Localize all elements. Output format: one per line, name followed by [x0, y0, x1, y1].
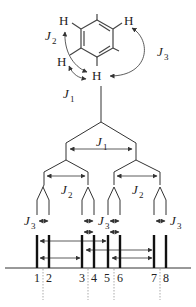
- svg-text:3: 3: [177, 221, 182, 231]
- tree-j3-label: J 3: [98, 213, 110, 231]
- j1-coupling-arrow: [69, 66, 86, 79]
- peak-label: 5: [104, 271, 110, 285]
- peak-label: 4: [91, 271, 97, 285]
- tree-j3-label: J 3: [24, 213, 36, 231]
- j1-label: J 1: [63, 86, 75, 104]
- svg-text:1: 1: [103, 142, 108, 152]
- svg-text:J: J: [63, 86, 70, 101]
- peak-label: 2: [46, 271, 52, 285]
- svg-text:J: J: [96, 134, 103, 149]
- peak-label: 6: [117, 271, 123, 285]
- peak-label: 8: [163, 271, 169, 285]
- svg-text:3: 3: [164, 52, 169, 62]
- peak-label: 3: [79, 271, 85, 285]
- hydrogen-label: H: [59, 13, 68, 28]
- j3-coupling-arrow: [110, 28, 144, 76]
- splitting-tree: [37, 86, 166, 221]
- nmr-splitting-diagram: H H H H J 2 J 1 J 3 J: [0, 0, 196, 307]
- tree-j2-label: J 2: [132, 182, 144, 200]
- svg-text:1: 1: [70, 94, 75, 104]
- svg-text:J: J: [170, 213, 177, 228]
- hydrogen-label: H: [92, 68, 101, 83]
- svg-text:J: J: [132, 182, 139, 197]
- svg-text:2: 2: [68, 190, 73, 200]
- svg-text:3: 3: [31, 221, 36, 231]
- peak-label: 1: [34, 271, 40, 285]
- svg-text:J: J: [45, 28, 52, 43]
- svg-text:J: J: [61, 182, 68, 197]
- svg-text:J: J: [24, 213, 31, 228]
- svg-text:J: J: [98, 213, 105, 228]
- svg-text:3: 3: [105, 221, 110, 231]
- j2-label: J 2: [45, 28, 57, 46]
- hydrogen-label: H: [124, 13, 133, 28]
- hydrogen-label: H: [57, 54, 66, 69]
- svg-text:J: J: [157, 44, 164, 59]
- peak-label: 7: [151, 271, 157, 285]
- benzene-ring: [70, 14, 122, 66]
- svg-text:2: 2: [52, 36, 57, 46]
- j3-label: J 3: [157, 44, 169, 62]
- tree-j2-label: J 2: [61, 182, 73, 200]
- tree-j3-label: J 3: [170, 213, 182, 231]
- svg-text:2: 2: [139, 190, 144, 200]
- spectrum: [5, 232, 191, 300]
